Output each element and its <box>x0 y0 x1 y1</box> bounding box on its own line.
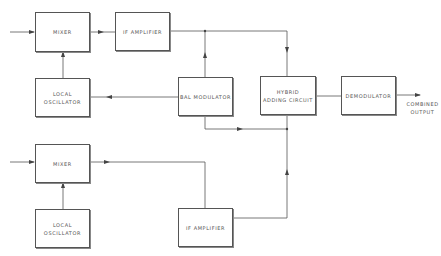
local-oscillator-bottom-block: LOCAL OSCILLATOR <box>35 209 90 248</box>
hybrid-label-line2: ADDING CIRCUIT <box>263 96 313 104</box>
mixer-top-block: MIXER <box>35 12 90 52</box>
bal-modulator-label: BAL MODULATOR <box>180 93 231 101</box>
local-oscillator-top-block: LOCAL OSCILLATOR <box>35 78 90 117</box>
local-oscillator-bottom-label: LOCAL OSCILLATOR <box>36 221 89 237</box>
local-oscillator-top-label: LOCAL OSCILLATOR <box>36 90 89 106</box>
hybrid-label-line1: HYBRID <box>277 88 300 96</box>
bal-modulator-block: BAL MODULATOR <box>178 77 233 116</box>
output-label-line1: COMBINED <box>404 100 441 108</box>
combined-output-label: COMBINED OUTPUT <box>404 100 441 116</box>
if-amplifier-top-label: IF AMPLIFIER <box>123 28 162 36</box>
if-amplifier-top-block: IF AMPLIFIER <box>115 12 170 51</box>
mixer-bottom-label: MIXER <box>53 160 72 168</box>
hybrid-adding-circuit-block: HYBRID ADDING CIRCUIT <box>260 76 316 115</box>
demodulator-label: DEMODULATOR <box>346 92 392 100</box>
demodulator-block: DEMODULATOR <box>341 76 396 115</box>
if-amplifier-bottom-block: IF AMPLIFIER <box>178 208 233 247</box>
output-label-line2: OUTPUT <box>404 108 441 116</box>
mixer-bottom-block: MIXER <box>35 144 90 183</box>
mixer-top-label: MIXER <box>53 28 72 36</box>
if-amplifier-bottom-label: IF AMPLIFIER <box>186 224 225 232</box>
